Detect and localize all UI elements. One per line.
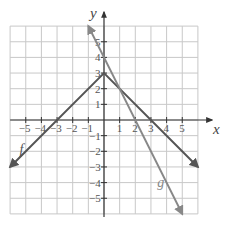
y-tick-label: −4 [89, 177, 101, 189]
y-tick-label: 1 [95, 98, 101, 110]
y-axis-label: y [88, 5, 97, 21]
x-tick-label: 5 [179, 122, 185, 134]
x-tick-label: −5 [19, 122, 31, 134]
y-tick-label: −3 [89, 161, 101, 173]
y-tick-label: 2 [95, 83, 101, 95]
x-tick-label: 1 [117, 122, 123, 134]
coordinate-plane: xy −5−4−3−2−11234554321−1−2−3−4−5 fg [0, 0, 226, 225]
function-g-label: g [157, 175, 164, 190]
function-f-label: f [19, 142, 25, 157]
y-tick-label: −1 [89, 130, 101, 142]
x-tick-label: −2 [66, 122, 78, 134]
y-tick-label: 4 [95, 51, 101, 63]
y-tick-label: −5 [89, 192, 101, 204]
x-tick-label: 3 [148, 122, 154, 134]
y-tick-label: −2 [89, 145, 101, 157]
x-axis-label: x [212, 121, 220, 137]
